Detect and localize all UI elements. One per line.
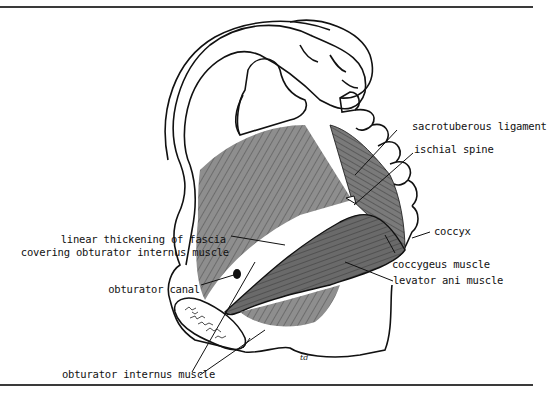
- label-levator-ani-muscle: levator ani muscle: [393, 274, 503, 287]
- label-linear-thickening-line1: linear thickening of fascia: [61, 233, 226, 246]
- label-obturator-canal: obturator canal: [108, 283, 200, 296]
- label-coccygeus-muscle: coccygeus muscle: [392, 258, 490, 271]
- label-coccyx: coccyx: [434, 225, 471, 238]
- label-ischial-spine: ischial spine: [414, 143, 494, 156]
- label-sacrotuberous-ligament: sacrotuberous ligament: [412, 120, 547, 133]
- tick: [243, 338, 250, 348]
- label-linear-thickening-line2: covering obturator internus muscle: [21, 246, 229, 259]
- artist-signature: td: [300, 353, 308, 362]
- leader-coccyx: [412, 232, 430, 238]
- label-obturator-internus-muscle: obturator internus muscle: [62, 368, 215, 381]
